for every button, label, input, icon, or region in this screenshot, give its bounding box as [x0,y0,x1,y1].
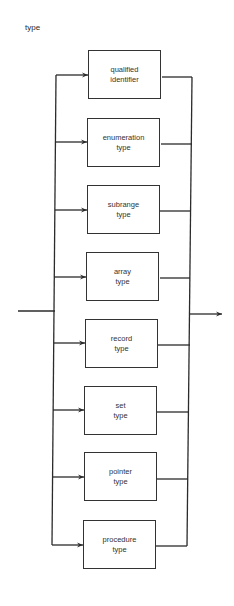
box-subrange-type: subrangetype [87,185,160,234]
right-rail [187,77,192,546]
box-label: type [103,143,145,153]
box-set-type: settype [84,386,157,435]
box-label: type [108,210,139,220]
box-label: pointer [109,467,132,477]
box-label: record [111,334,132,344]
box-pointer-type: pointertype [84,452,157,501]
left-rail [52,75,56,545]
box-label: procedure [103,535,137,545]
box-label: enumeration [103,133,145,143]
box-qualified-identifier: qualifiedidentifier [88,50,161,99]
box-label: set [113,401,127,411]
box-enumeration-type: enumerationtype [87,118,160,167]
box-record-type: recordtype [85,319,158,368]
box-procedure-type: proceduretype [83,520,156,569]
box-label: qualified [110,65,138,75]
box-label: type [114,277,131,287]
box-label: type [113,411,127,421]
box-label: type [111,344,132,354]
box-label: type [109,477,132,487]
box-array-type: arraytype [86,252,159,301]
box-label: identifier [110,75,138,85]
box-label: type [103,545,137,555]
box-label: subrange [108,200,139,210]
box-label: array [114,267,131,277]
